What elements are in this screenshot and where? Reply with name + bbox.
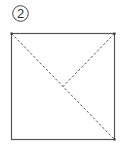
corner-mark-bottom-right (114, 139, 116, 141)
fold-line-half-diagonal (63, 34, 115, 87)
fold-diagram (0, 0, 127, 146)
corner-mark-top-left (11, 33, 13, 35)
corner-mark-top-right (114, 33, 116, 35)
